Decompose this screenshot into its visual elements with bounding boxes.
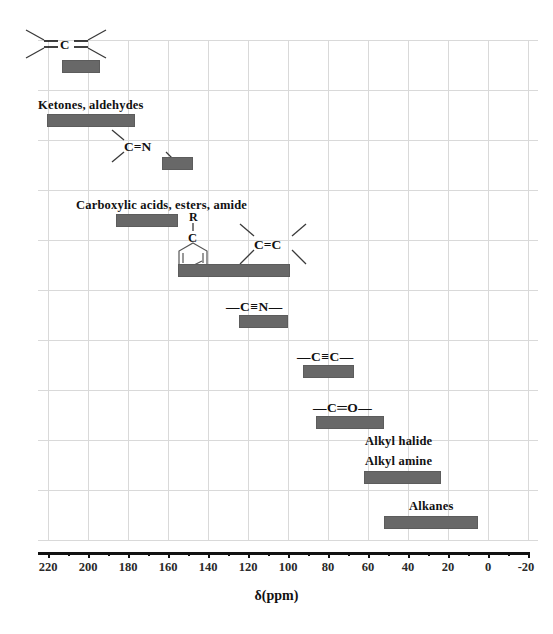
x-axis-line xyxy=(38,552,530,555)
axis-tick-label: 20 xyxy=(442,560,455,575)
c-o-bar xyxy=(316,416,384,429)
alkanes-bar xyxy=(384,516,478,529)
axis-tick-minor xyxy=(268,552,270,556)
axis-tick-minor xyxy=(228,552,230,556)
axis-tick-label: 120 xyxy=(239,560,258,575)
axis-tick-minor xyxy=(148,552,150,556)
axis-tick-minor xyxy=(508,552,510,556)
axis-tick xyxy=(328,552,330,558)
axis-tick-label: 160 xyxy=(159,560,178,575)
axis-tick-label: 100 xyxy=(279,560,298,575)
carbon-oxygen-structure: —C═O— xyxy=(313,400,372,416)
axis-tick-label: -20 xyxy=(518,560,535,575)
imine-formula-label: C=N xyxy=(124,139,151,154)
axis-tick xyxy=(408,552,410,558)
axis-tick xyxy=(48,552,50,558)
benzene-ring-structure: R C xyxy=(165,210,227,272)
label-ketones-aldehydes: Ketones, aldehydes xyxy=(38,98,144,113)
axis-tick-minor xyxy=(108,552,110,556)
axis-tick-minor xyxy=(428,552,430,556)
gridline-horizontal xyxy=(38,90,538,91)
gridline-horizontal xyxy=(38,190,538,191)
nmr-chemical-shift-chart: C Ketones, aldehydes C=N Carboxylic acid… xyxy=(0,0,553,634)
axis-tick xyxy=(488,552,490,558)
nitrile-bar xyxy=(239,315,288,328)
gridline-horizontal xyxy=(38,540,538,541)
axis-title: δ(ppm) xyxy=(0,588,553,604)
axis-tick-label: 60 xyxy=(362,560,375,575)
gridline-horizontal xyxy=(38,340,538,341)
axis-tick xyxy=(88,552,90,558)
axis-tick-label: 80 xyxy=(322,560,335,575)
benzene-substituent-label: R xyxy=(189,210,198,224)
imine-bar xyxy=(162,157,193,170)
allene-center-atom-label: C xyxy=(60,37,69,52)
aromatic-alkene-bar xyxy=(178,264,290,277)
axis-tick-minor xyxy=(388,552,390,556)
gridline-horizontal xyxy=(38,290,538,291)
alkyl-halide-amine-bar xyxy=(364,471,441,484)
alkyne-bar xyxy=(303,365,354,378)
axis-tick xyxy=(208,552,210,558)
axis-tick xyxy=(168,552,170,558)
alkyne-structure: —C≡C— xyxy=(297,349,354,365)
allene-bar xyxy=(62,60,100,73)
axis-tick-label: 0 xyxy=(485,560,491,575)
axis-tick xyxy=(528,552,530,558)
axis-tick-minor xyxy=(468,552,470,556)
gridline-horizontal xyxy=(38,490,538,491)
axis-tick xyxy=(288,552,290,558)
gridline-horizontal xyxy=(38,40,538,41)
ketones-aldehydes-bar xyxy=(47,114,135,127)
label-alkanes: Alkanes xyxy=(409,499,453,514)
axis-tick xyxy=(128,552,130,558)
axis-tick-minor xyxy=(68,552,70,556)
axis-tick-minor xyxy=(188,552,190,556)
axis-tick-label: 140 xyxy=(199,560,218,575)
gridline-horizontal xyxy=(38,440,538,441)
axis-tick xyxy=(368,552,370,558)
axis-tick xyxy=(448,552,450,558)
alkene-structure: C=C xyxy=(236,222,310,266)
axis-tick xyxy=(248,552,250,558)
alkene-formula-label: C=C xyxy=(254,237,281,252)
gridline-horizontal xyxy=(38,390,538,391)
axis-tick-label: 220 xyxy=(39,560,58,575)
axis-tick-minor xyxy=(308,552,310,556)
nitrile-structure: —C≡N— xyxy=(226,299,283,315)
axis-tick-minor xyxy=(348,552,350,556)
axis-tick-label: 180 xyxy=(119,560,138,575)
label-alkyl-amine: Alkyl amine xyxy=(365,454,432,469)
axis-tick-label: 200 xyxy=(79,560,98,575)
axis-tick-label: 40 xyxy=(402,560,415,575)
label-alkyl-halide: Alkyl halide xyxy=(365,434,432,449)
